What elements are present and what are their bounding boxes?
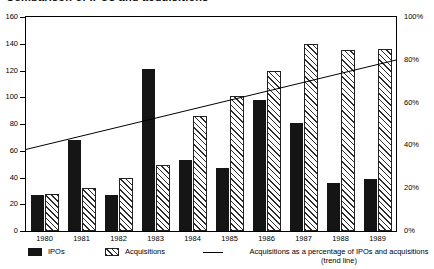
y-tick-label-40: 40	[10, 174, 18, 182]
x-tick-label-1983: 1983	[147, 234, 164, 243]
chart-title-clipped: Comparison of IPOs and acquisitions	[6, 0, 209, 1]
y-tick-label-60: 60	[10, 147, 18, 155]
legend-swatch-ipos-icon	[28, 248, 42, 256]
y-tick-label-100: 100	[5, 94, 18, 102]
y2-tick-label-100: 100%	[404, 13, 423, 21]
chart-legend: IPOs Acquisitions Acquisitions as a perc…	[0, 247, 434, 269]
legend-label-acquisitions: Acquisitions	[125, 247, 165, 256]
y-tick-label-80: 80	[10, 120, 18, 128]
y2-tick-label-60: 60%	[404, 99, 419, 107]
legend-sublabel-trend: (trend line)	[229, 256, 434, 265]
y2-tick-label-40: 40%	[404, 142, 419, 150]
legend-item-trend: Acquisitions as a percentage of IPOs and…	[203, 247, 434, 265]
x-tick-label-1981: 1981	[73, 234, 90, 243]
x-tick-label-1988: 1988	[332, 234, 349, 243]
chart-container: Comparison of IPOs and acquisitions 0204…	[0, 0, 434, 269]
x-tick-label-1985: 1985	[221, 234, 238, 243]
legend-label-ipos: IPOs	[48, 247, 65, 256]
y2-tick-label-80: 80%	[404, 56, 419, 64]
trend-line	[25, 60, 397, 150]
y2-tick-label-20: 20%	[404, 184, 419, 192]
x-axis-labels: 1980198119821983198419851986198719881989	[26, 234, 396, 246]
legend-label-trend: Acquisitions as a percentage of IPOs and…	[250, 247, 429, 256]
y-tick-label-120: 120	[5, 67, 18, 75]
y2-tick-label-0: 0%	[404, 227, 415, 235]
y-tick-label-140: 140	[5, 40, 18, 48]
legend-item-acquisitions: Acquisitions	[105, 247, 165, 256]
trend-line-layer	[25, 16, 397, 232]
x-tick-label-1987: 1987	[295, 234, 312, 243]
legend-item-ipos: IPOs	[28, 247, 65, 256]
y-tick-label-160: 160	[5, 13, 18, 21]
y-tick-label-20: 20	[10, 201, 18, 209]
x-tick-label-1984: 1984	[184, 234, 201, 243]
x-tick-label-1986: 1986	[258, 234, 275, 243]
x-tick-label-1989: 1989	[369, 234, 386, 243]
y-tick-label-0: 0	[14, 227, 18, 235]
x-tick-label-1982: 1982	[110, 234, 127, 243]
y-axis-left: 020406080100120140160	[0, 16, 23, 232]
legend-swatch-acquisitions-icon	[105, 248, 119, 256]
y-axis-right: 0%20%40%60%80%100%	[399, 16, 434, 232]
legend-swatch-trend-icon	[203, 252, 223, 253]
x-tick-label-1980: 1980	[36, 234, 53, 243]
